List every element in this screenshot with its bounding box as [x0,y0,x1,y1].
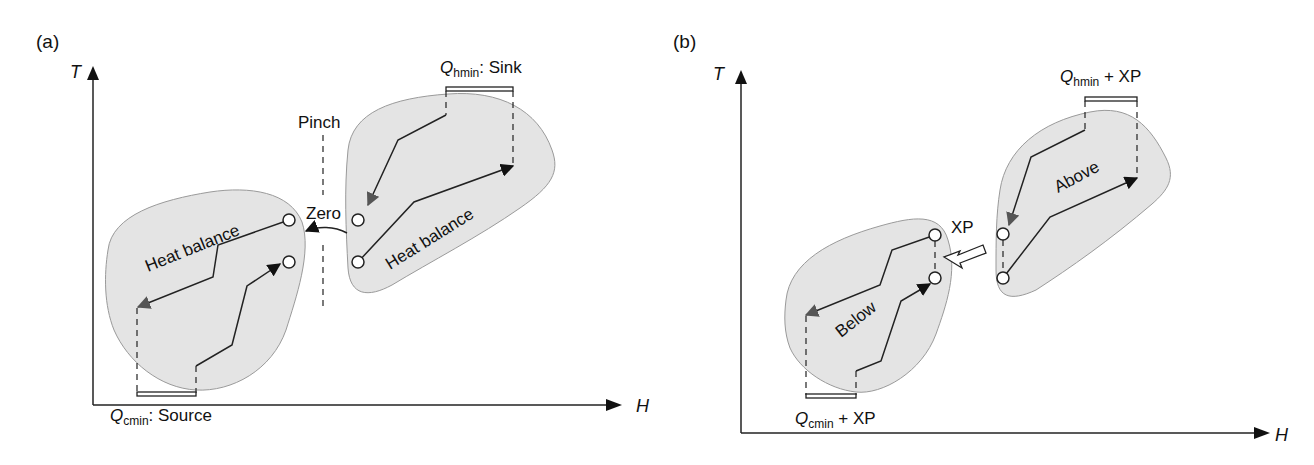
region-above-b [996,110,1170,296]
hot-utility-label-b: Qhmin + XP [1060,67,1141,89]
xp-label: XP [951,218,974,237]
hot-utility-label-a: Qhmin: Sink [440,58,522,80]
pinch-label: Pinch [298,113,341,132]
node-hot-pinch-above-a [352,214,364,226]
node-cold-above-b [997,272,1009,284]
pinch-diagram: (a) T H Pinch Zero Qhmin: Sink [0,0,1314,465]
t-axis-label-b: T [713,64,726,84]
cold-utility-bar-a [137,392,196,396]
node-hot-below-b [929,229,941,241]
zero-transfer-arrow [306,227,347,233]
h-axis-label-b: H [1275,425,1289,445]
panel-b-tag: (b) [673,31,696,52]
h-axis-arrow-icon [606,399,622,411]
node-cold-pinch-above-a [352,256,364,268]
node-cold-pinch-below-a [283,256,295,268]
cold-utility-label-a: Qcmin: Source [110,406,212,428]
cold-utility-bar-b [806,394,856,398]
node-cold-below-b [929,272,941,284]
panel-a: (a) T H Pinch Zero Qhmin: Sink [36,31,650,428]
t-axis-arrow-icon [87,66,99,80]
region-above-pinch-a [346,93,555,292]
h-axis-label-a: H [636,396,650,416]
t-axis-label-a: T [70,62,83,82]
zero-label: Zero [306,204,341,223]
t-axis-arrow-icon [735,70,747,84]
panel-a-tag: (a) [36,31,59,52]
panel-b: (b) T H XP Qhmin + XP Above [673,31,1289,445]
hot-utility-bar-a [446,87,513,91]
cold-utility-label-b: Qcmin + XP [795,409,876,431]
hot-utility-bar-b [1085,97,1137,101]
node-hot-above-b [997,228,1009,240]
h-axis-arrow-icon [1254,427,1270,439]
node-hot-pinch-below-a [283,214,295,226]
